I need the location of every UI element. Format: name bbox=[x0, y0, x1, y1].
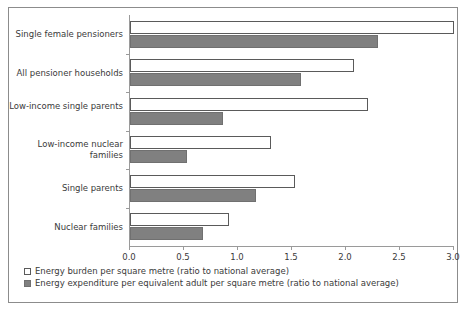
legend-item-energy-expenditure: Energy expenditure per equivalent adult … bbox=[24, 278, 399, 290]
bar-energy-burden bbox=[130, 136, 271, 149]
legend-swatch-filled bbox=[24, 280, 31, 287]
y-axis-tick bbox=[126, 208, 129, 209]
category-label: Single parents bbox=[5, 183, 123, 194]
bar-group bbox=[129, 15, 453, 54]
legend-label-energy-expenditure: Energy expenditure per equivalent adult … bbox=[35, 278, 399, 290]
bar-group bbox=[129, 92, 453, 131]
y-axis-tick bbox=[126, 169, 129, 170]
bar-energy-expenditure bbox=[130, 150, 187, 163]
chart-figure: 0.00.51.01.52.02.53.0 Single female pens… bbox=[8, 7, 458, 303]
x-axis-tick bbox=[399, 246, 400, 250]
x-axis-tick bbox=[291, 246, 292, 250]
x-axis-tick bbox=[237, 246, 238, 250]
legend-swatch-open bbox=[24, 268, 31, 275]
category-label: Low-income nuclear families bbox=[5, 139, 123, 160]
y-axis-tick bbox=[126, 131, 129, 132]
bar-energy-expenditure bbox=[130, 189, 256, 202]
category-label: Low-income single parents bbox=[5, 101, 123, 112]
bar-group bbox=[129, 131, 453, 170]
bar-group bbox=[129, 169, 453, 208]
x-axis-tick-label: 0.0 bbox=[109, 252, 149, 262]
bar-group bbox=[129, 208, 453, 247]
y-axis-tick bbox=[126, 92, 129, 93]
x-axis-tick-label: 0.5 bbox=[163, 252, 203, 262]
chart-legend: Energy burden per square metre (ratio to… bbox=[24, 266, 399, 289]
x-axis-tick bbox=[453, 246, 454, 250]
y-axis-tick bbox=[126, 54, 129, 55]
x-axis-tick-label: 3.0 bbox=[433, 252, 469, 262]
bar-energy-burden bbox=[130, 59, 354, 72]
bar-energy-burden bbox=[130, 21, 454, 34]
x-axis-tick-label: 1.5 bbox=[271, 252, 311, 262]
bar-energy-burden bbox=[130, 98, 368, 111]
bar-group bbox=[129, 54, 453, 93]
bar-energy-expenditure bbox=[130, 227, 203, 240]
x-axis-tick-label: 1.0 bbox=[217, 252, 257, 262]
category-label: Single female pensioners bbox=[5, 29, 123, 40]
category-label: Nuclear families bbox=[5, 222, 123, 233]
legend-item-energy-burden: Energy burden per square metre (ratio to… bbox=[24, 266, 399, 278]
bar-energy-expenditure bbox=[130, 35, 378, 48]
bar-energy-expenditure bbox=[130, 73, 301, 86]
plot-area: 0.00.51.01.52.02.53.0 bbox=[129, 15, 453, 246]
bar-energy-burden bbox=[130, 213, 229, 226]
bar-energy-expenditure bbox=[130, 112, 223, 125]
x-axis-tick bbox=[183, 246, 184, 250]
x-axis-tick-label: 2.5 bbox=[379, 252, 419, 262]
x-axis-tick-label: 2.0 bbox=[325, 252, 365, 262]
x-axis-tick bbox=[345, 246, 346, 250]
bar-energy-burden bbox=[130, 175, 295, 188]
legend-label-energy-burden: Energy burden per square metre (ratio to… bbox=[35, 266, 289, 278]
x-axis-tick bbox=[129, 246, 130, 250]
category-label: All pensioner households bbox=[5, 68, 123, 79]
